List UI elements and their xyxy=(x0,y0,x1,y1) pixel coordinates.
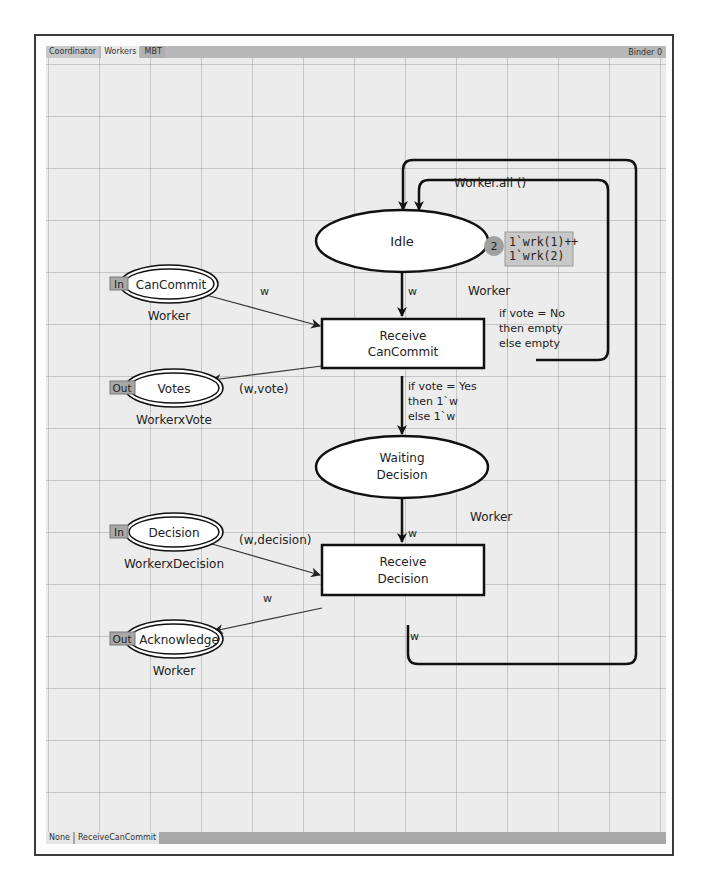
arc-rcc-to-waiting-label-3: else 1`w xyxy=(408,410,455,423)
arc-cancommit-to-rcc-label: w xyxy=(260,285,269,298)
port-tag-in: In xyxy=(110,277,128,290)
arc-waiting-to-rd-label: w xyxy=(408,527,417,540)
place-idle[interactable]: Idle xyxy=(316,210,488,272)
svg-text:Decision: Decision xyxy=(377,572,428,586)
svg-text:In: In xyxy=(114,526,124,538)
waiting-decision-colorset: Worker xyxy=(470,510,512,524)
status-bar: None ReceiveCanCommit xyxy=(46,832,666,844)
arc-decision-to-rd-label: (w,decision) xyxy=(239,533,311,547)
tab-workers[interactable]: Workers xyxy=(101,46,139,58)
decision-colorset: WorkerxDecision xyxy=(124,557,224,571)
svg-text:Votes: Votes xyxy=(158,382,191,396)
svg-text:Idle: Idle xyxy=(390,234,414,249)
place-cancommit[interactable]: CanCommit xyxy=(120,265,218,303)
arc-rcc-to-idle-label-2: then empty xyxy=(499,322,563,335)
arc-rd-to-ack[interactable] xyxy=(214,608,322,631)
arc-rcc-to-waiting-label-2: then 1`w xyxy=(408,395,458,408)
arc-idle-to-rcc-label: w xyxy=(408,285,417,298)
acknowledge-colorset: Worker xyxy=(153,664,195,678)
svg-text:Receive: Receive xyxy=(380,555,427,569)
port-tag-out: Out xyxy=(110,632,135,645)
svg-text:1`wrk(2): 1`wrk(2) xyxy=(509,249,564,263)
arc-decision-to-rd[interactable] xyxy=(212,544,320,575)
svg-text:CanCommit: CanCommit xyxy=(136,278,207,292)
svg-text:Decision: Decision xyxy=(376,468,427,482)
arc-rcc-to-votes[interactable] xyxy=(212,366,322,380)
page-tab-bar: Coordinator Workers MBT Binder 0 xyxy=(46,46,666,58)
port-tag-in: In xyxy=(110,525,128,538)
tab-coordinator[interactable]: Coordinator xyxy=(46,46,99,58)
cpn-editor-window: Coordinator Workers MBT Binder 0 xyxy=(34,34,674,856)
transition-receive-cancommit[interactable]: Receive CanCommit xyxy=(322,319,484,368)
arc-rcc-to-votes-label: (w,vote) xyxy=(239,382,289,396)
place-votes[interactable]: Votes xyxy=(125,369,223,407)
arc-rcc-to-idle-label-1: if vote = No xyxy=(499,307,565,320)
idle-token-count[interactable]: 2 xyxy=(484,236,504,256)
arc-rcc-to-waiting-label-1: if vote = Yes xyxy=(408,380,477,393)
svg-text:Decision: Decision xyxy=(148,526,199,540)
place-decision[interactable]: Decision xyxy=(125,513,223,551)
place-waiting-decision[interactable]: Waiting Decision xyxy=(316,436,488,498)
svg-text:Waiting: Waiting xyxy=(379,451,424,465)
arc-rcc-to-idle-label-3: else empty xyxy=(499,337,561,350)
svg-text:CanCommit: CanCommit xyxy=(368,345,439,359)
petri-net-diagram: Idle Worker.all () Worker 2 1`wrk(1)++ 1… xyxy=(46,58,666,832)
place-acknowledge[interactable]: Acknowledge xyxy=(125,620,223,658)
idle-marking-box[interactable]: 1`wrk(1)++ 1`wrk(2) xyxy=(505,232,578,266)
arc-cancommit-to-rcc[interactable] xyxy=(206,295,320,326)
transition-receive-decision[interactable]: Receive Decision xyxy=(322,545,484,595)
cancommit-colorset: Worker xyxy=(148,309,190,323)
svg-text:Out: Out xyxy=(112,633,131,645)
status-item-none: None xyxy=(46,832,73,844)
tab-mbt[interactable]: MBT xyxy=(141,46,164,58)
arc-rd-to-idle-label: w xyxy=(410,630,419,643)
binder-label: Binder 0 xyxy=(628,48,666,57)
idle-colorset: Worker xyxy=(468,284,510,298)
status-item-transition: ReceiveCanCommit xyxy=(75,832,159,844)
idle-initial-marking: Worker.all () xyxy=(454,176,526,190)
svg-text:1`wrk(1)++: 1`wrk(1)++ xyxy=(509,235,578,249)
svg-text:Receive: Receive xyxy=(380,329,427,343)
arc-rd-to-ack-label: w xyxy=(263,592,272,605)
svg-text:Out: Out xyxy=(112,382,131,394)
votes-colorset: WorkerxVote xyxy=(136,413,212,427)
net-canvas[interactable]: Idle Worker.all () Worker 2 1`wrk(1)++ 1… xyxy=(46,58,666,832)
svg-text:Acknowledge: Acknowledge xyxy=(139,633,219,647)
port-tag-out: Out xyxy=(110,381,135,394)
svg-text:2: 2 xyxy=(491,240,498,253)
svg-text:In: In xyxy=(114,278,124,290)
